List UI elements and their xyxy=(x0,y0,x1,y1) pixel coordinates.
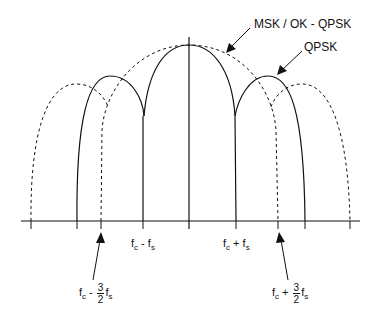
msk-spectrum-curve xyxy=(31,45,350,221)
numerator: 3 xyxy=(97,282,105,294)
s-subscript: s xyxy=(246,243,250,252)
axis-ticks xyxy=(31,221,350,229)
operator: + xyxy=(230,237,243,249)
c-subscript: c xyxy=(134,243,138,252)
fraction: 32 xyxy=(293,282,301,305)
s-subscript: s xyxy=(108,292,112,301)
qpsk-pointer-arrow xyxy=(277,51,302,75)
fc-minus-fs-label: fc - fs xyxy=(131,238,155,249)
fc-plus-fs-label: fc + fs xyxy=(223,238,250,249)
c-subscript: c xyxy=(226,243,230,252)
fc-plus-3-2-fs-arrow xyxy=(276,232,288,280)
c-subscript: c xyxy=(275,292,279,301)
s-subscript: s xyxy=(304,292,308,301)
fraction: 32 xyxy=(97,282,105,305)
fc-plus-3-2-fs-label: fc + 32fs xyxy=(272,282,308,305)
c-subscript: c xyxy=(82,292,86,301)
msk-pointer-arrow xyxy=(226,28,250,53)
s-subscript: s xyxy=(151,243,155,252)
msk-label: MSK / OK - QPSK xyxy=(254,18,351,30)
denominator: 2 xyxy=(97,294,105,305)
qpsk-label: QPSK xyxy=(304,41,337,53)
operator: + xyxy=(279,286,292,298)
fc-minus-3-2-fs-arrow xyxy=(93,232,105,280)
denominator: 2 xyxy=(293,294,301,305)
operator: - xyxy=(86,286,96,298)
fc-minus-3-2-fs-label: fc - 32fs xyxy=(79,282,112,305)
qpsk-spectrum-curve xyxy=(77,45,305,221)
numerator: 3 xyxy=(293,282,301,294)
operator: - xyxy=(138,237,148,249)
